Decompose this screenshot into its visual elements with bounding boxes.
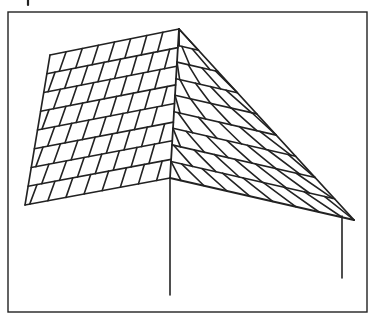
shingle-joint — [106, 134, 112, 153]
shingle-joint — [93, 100, 99, 119]
shingle-joint — [84, 174, 91, 194]
shingle-joint — [117, 113, 123, 132]
shingle-joint — [113, 151, 119, 170]
shingle-joint — [131, 147, 137, 166]
shingle-joint — [138, 73, 144, 92]
right-roof-face — [170, 29, 354, 220]
shingle-joint — [87, 83, 93, 102]
shingle-joint — [104, 79, 110, 98]
course-line — [175, 95, 257, 114]
shingle-joint — [134, 110, 140, 129]
shingle-joint — [92, 45, 98, 64]
shingle-joint — [71, 140, 78, 160]
wall-posts — [170, 178, 342, 295]
shingle-joint — [149, 144, 155, 163]
shingle-joint — [162, 87, 167, 106]
shingle-joint — [76, 49, 83, 69]
shingle-joint — [120, 168, 126, 187]
shingle-joint — [138, 164, 144, 183]
shingle-joint — [53, 89, 60, 109]
shingle-joint — [89, 137, 95, 156]
shingle-joint — [59, 52, 66, 72]
shingle-joint — [125, 39, 131, 58]
shingle-joint — [121, 76, 127, 95]
shingle-joint — [110, 96, 116, 115]
shingle-joint — [175, 95, 180, 113]
shingle-joint — [182, 46, 190, 65]
shingle-joint — [155, 70, 160, 89]
shingle-joint — [177, 62, 180, 79]
shingle-joint — [142, 127, 148, 146]
shingle-joint — [81, 66, 87, 85]
shingle-joint — [65, 123, 72, 143]
shingle-joint — [145, 90, 151, 109]
shingle-joint — [42, 110, 49, 130]
shingle-joint — [159, 124, 164, 143]
shingle-joint — [173, 128, 181, 147]
shingle-joint — [180, 80, 190, 99]
shingle-joint — [164, 49, 169, 68]
shingle-joint — [102, 171, 108, 190]
left-roof-face — [25, 29, 179, 205]
course-line — [173, 128, 296, 156]
shingle-joint — [60, 161, 67, 181]
shingle-joint — [131, 56, 137, 75]
eave-line — [170, 178, 354, 220]
frame — [8, 0, 367, 312]
shingle-joint — [36, 147, 43, 167]
shingle-joint — [30, 185, 37, 205]
shingle-joint — [108, 42, 114, 61]
shingle-joint — [95, 154, 101, 173]
shingle-joint — [53, 144, 60, 164]
shingle-joint — [48, 72, 55, 92]
shingle-joint — [157, 161, 163, 180]
shingle-joint — [158, 32, 163, 51]
shingle-joint — [77, 157, 84, 177]
shingle-joint — [59, 106, 66, 126]
shingle-joint — [128, 93, 134, 112]
shingle-joint — [76, 103, 83, 123]
shingle-joint — [98, 62, 104, 81]
shingle-joint — [82, 120, 89, 140]
shingle-joint — [141, 36, 147, 55]
shingle-joint — [48, 127, 55, 147]
shingle-joint — [148, 53, 153, 72]
shingle-joint — [65, 69, 72, 89]
shingle-joint — [42, 164, 49, 184]
hip-roof-diagram — [0, 0, 369, 320]
shingle-joint — [124, 130, 130, 149]
shingle-joint — [115, 59, 121, 78]
shingle-joint — [70, 86, 77, 106]
shingle-joint — [152, 107, 158, 126]
shingle-joint — [48, 181, 55, 201]
shingle-joint — [100, 117, 106, 136]
shingle-joint — [66, 178, 73, 198]
